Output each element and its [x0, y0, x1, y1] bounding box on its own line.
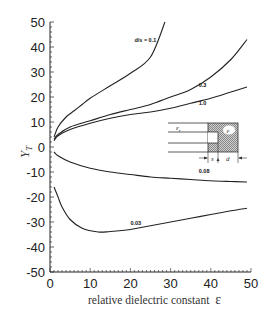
x-tick-label: 50 [244, 276, 258, 291]
inset-s-label: s [211, 155, 214, 163]
curve-label: 0.3 [199, 82, 207, 88]
curve-label: d/s = 0.1 [134, 37, 156, 43]
x-tick-label: 0 [46, 276, 53, 291]
inset-notch [208, 132, 218, 143]
x-tick-label: 30 [163, 276, 177, 291]
inset-eps-label: ε [227, 127, 230, 135]
x-tick-label: 10 [83, 276, 97, 291]
y-tick-label: 20 [31, 90, 45, 105]
y-tick-label: -10 [26, 165, 45, 180]
y-tick-label: -30 [26, 215, 45, 230]
y-tick-label: -40 [26, 240, 45, 255]
inset-arrowhead [238, 157, 242, 160]
y-tick-label: 50 [31, 15, 45, 30]
curve-label: 0.08 [199, 168, 210, 174]
inset-arrowhead [217, 158, 220, 161]
x-tick-label: 40 [204, 276, 218, 291]
x-axis-title: relative dielectric constantε [88, 292, 221, 307]
y-axis-title-sub: T [24, 145, 34, 151]
x-axis-title-symbol: ε [215, 292, 221, 307]
x-axis: 01020304050 [46, 268, 258, 291]
curve-label: 0.03 [130, 220, 141, 226]
y-tick-label: -20 [26, 190, 45, 205]
curve-ds-0-03 [54, 187, 247, 232]
inset-d-label: d [226, 155, 230, 163]
y-tick-label: 30 [31, 65, 45, 80]
chart: 50403020100-10-20-30-40-50 01020304050 d… [0, 0, 269, 322]
inset-eps-r-label: εr [176, 124, 181, 133]
y-tick-label: 40 [31, 40, 45, 55]
y-tick-label: -50 [26, 265, 45, 280]
y-axis-title: YT [17, 145, 34, 158]
y-tick-label: 10 [31, 115, 45, 130]
inset-arrowhead [204, 157, 208, 160]
inset-diagram: ε εr s d [168, 123, 247, 163]
curve-label: 1.0 [199, 100, 207, 106]
x-tick-label: 20 [123, 276, 137, 291]
y-tick-label: 0 [38, 140, 45, 155]
x-axis-title-text: relative dielectric constant [88, 294, 210, 306]
